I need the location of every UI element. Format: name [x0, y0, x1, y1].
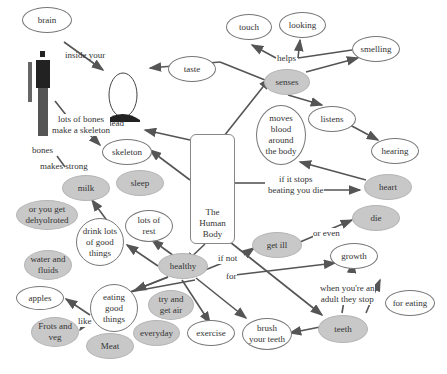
- central-node-human-body[interactable]: TheHumanBody: [190, 134, 235, 244]
- node-get-ill[interactable]: get ill: [252, 232, 302, 258]
- central-node-label: TheHumanBody: [191, 207, 234, 240]
- link-if-it-stops: if it stopsbeating you die: [268, 174, 324, 196]
- node-brush-teeth[interactable]: brushyour teeth: [242, 318, 292, 350]
- node-looking[interactable]: looking: [279, 12, 326, 38]
- node-exercise[interactable]: exercise: [187, 320, 235, 346]
- node-moves-blood[interactable]: movesbloodaroundthe body: [256, 105, 306, 165]
- link-if-not: if not: [218, 253, 237, 264]
- node-lots-of-rest[interactable]: lots ofrest: [125, 210, 173, 242]
- node-healthy[interactable]: healthy: [158, 253, 208, 279]
- node-water-fluids[interactable]: water andfluids: [24, 250, 72, 280]
- link-lots-of-bones: lots of bonesmake a skeleton: [52, 114, 110, 136]
- link-adult-they-stop: when you're anadult they stop: [320, 283, 375, 305]
- node-sleep[interactable]: sleep: [116, 170, 164, 196]
- node-try-get-air[interactable]: try andget air: [148, 290, 194, 320]
- skeleton-illustration-icon: [28, 51, 50, 136]
- node-listens[interactable]: listens: [308, 106, 356, 132]
- node-dehydrated[interactable]: or you getdehyolroted: [16, 200, 78, 230]
- node-heart[interactable]: heart: [364, 174, 412, 200]
- node-frots-veg[interactable]: Frots andveg: [31, 317, 79, 347]
- child-head-illustration-icon: [105, 73, 140, 122]
- node-growth[interactable]: growth: [330, 243, 378, 269]
- link-makes-strong: makes strong: [40, 161, 88, 172]
- link-helps: helps: [277, 53, 296, 64]
- node-taste[interactable]: taste: [168, 56, 216, 82]
- node-skeleton[interactable]: skeleton: [102, 139, 152, 165]
- node-milk[interactable]: milk: [62, 175, 110, 201]
- link-like: like: [78, 316, 92, 327]
- node-apples[interactable]: apples: [16, 286, 64, 310]
- node-teeth[interactable]: teeth: [318, 315, 368, 343]
- node-smelling[interactable]: smelling: [352, 36, 400, 62]
- link-for: for: [226, 271, 237, 282]
- link-or-even: or even: [313, 228, 340, 239]
- node-for-eating[interactable]: for eating: [385, 290, 435, 316]
- node-eating-good-things[interactable]: eatinggoodthings: [90, 284, 138, 332]
- node-everyday[interactable]: everyday: [133, 320, 180, 346]
- node-meat[interactable]: Meat: [86, 333, 134, 359]
- node-senses[interactable]: senses: [264, 69, 310, 95]
- node-hearing[interactable]: hearing: [371, 138, 419, 164]
- node-touch[interactable]: touch: [226, 14, 272, 40]
- link-inside-your: inside your: [65, 50, 105, 61]
- node-brain[interactable]: brain: [22, 7, 72, 33]
- node-bones[interactable]: bones: [32, 145, 53, 156]
- node-drink-good-things[interactable]: drink lotsof goodthings: [76, 218, 124, 266]
- node-die[interactable]: die: [352, 205, 400, 231]
